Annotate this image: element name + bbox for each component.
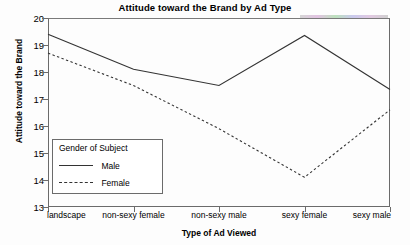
legend-title: Gender of Subject xyxy=(59,143,128,153)
y-tick-label: 15 xyxy=(4,148,44,159)
y-tick-mark xyxy=(42,45,48,46)
y-tick-label: 14 xyxy=(4,175,44,186)
y-tick-mark xyxy=(42,18,48,19)
legend-swatch-dashed-icon xyxy=(59,182,93,183)
y-tick-label: 20 xyxy=(4,13,44,24)
legend-item-female: Female xyxy=(59,177,130,188)
legend-swatch-solid-icon xyxy=(59,165,93,166)
x-tick-label: non-sexy female xyxy=(102,210,164,220)
y-tick-mark xyxy=(42,72,48,73)
x-tick-label: non-sexy male xyxy=(191,210,246,220)
y-tick-label: 13 xyxy=(4,202,44,213)
x-axis-label: Type of Ad Viewed xyxy=(48,228,390,238)
chart-figure: Attitude toward the Brand by Ad Type Att… xyxy=(0,0,410,245)
y-tick-label: 19 xyxy=(4,40,44,51)
chart-title: Attitude toward the Brand by Ad Type xyxy=(0,2,410,13)
y-tick-mark xyxy=(42,180,48,181)
y-tick-mark xyxy=(42,126,48,127)
legend-label-female: Female xyxy=(101,178,129,188)
y-tick-label: 18 xyxy=(4,67,44,78)
y-tick-label: 17 xyxy=(4,94,44,105)
legend: Gender of Subject Male Female xyxy=(52,139,163,194)
x-tick-label: sexy male xyxy=(353,210,391,220)
x-tick-label: sexy female xyxy=(282,210,327,220)
y-tick-mark xyxy=(42,153,48,154)
y-axis-label: Attitude toward the Brand xyxy=(14,16,24,166)
x-tick-label: landscape xyxy=(47,210,86,220)
y-tick-label: 16 xyxy=(4,121,44,132)
legend-item-male: Male xyxy=(59,160,120,171)
y-tick-mark xyxy=(42,99,48,100)
legend-label-male: Male xyxy=(101,161,119,171)
